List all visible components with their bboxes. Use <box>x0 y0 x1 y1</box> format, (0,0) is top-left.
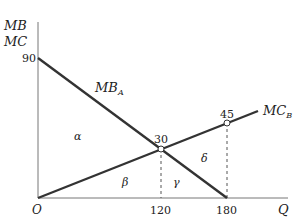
y-axis-label-1: MB <box>3 18 27 33</box>
intersection-marker <box>158 146 164 152</box>
mb-a-line <box>38 58 227 198</box>
region-beta: β <box>121 176 128 189</box>
mb-a-label: MBA <box>94 80 124 97</box>
x-axis-label: Q <box>278 202 289 217</box>
origin-label: O <box>32 203 42 217</box>
region-delta: δ <box>201 152 208 165</box>
chart: MB MC 90 O 120 180 Q MBA MCB 30 45 α β γ… <box>0 0 298 224</box>
annotation-45: 45 <box>220 108 234 121</box>
y-axis-label-2: MC <box>3 34 27 49</box>
x-tick-120: 120 <box>150 204 171 217</box>
annotation-30: 30 <box>154 133 168 146</box>
region-gamma: γ <box>173 176 180 189</box>
x-tick-180: 180 <box>216 204 237 217</box>
region-alpha: α <box>74 130 82 143</box>
y-tick-90: 90 <box>22 52 36 65</box>
mc-b-label: MCB <box>262 103 292 120</box>
